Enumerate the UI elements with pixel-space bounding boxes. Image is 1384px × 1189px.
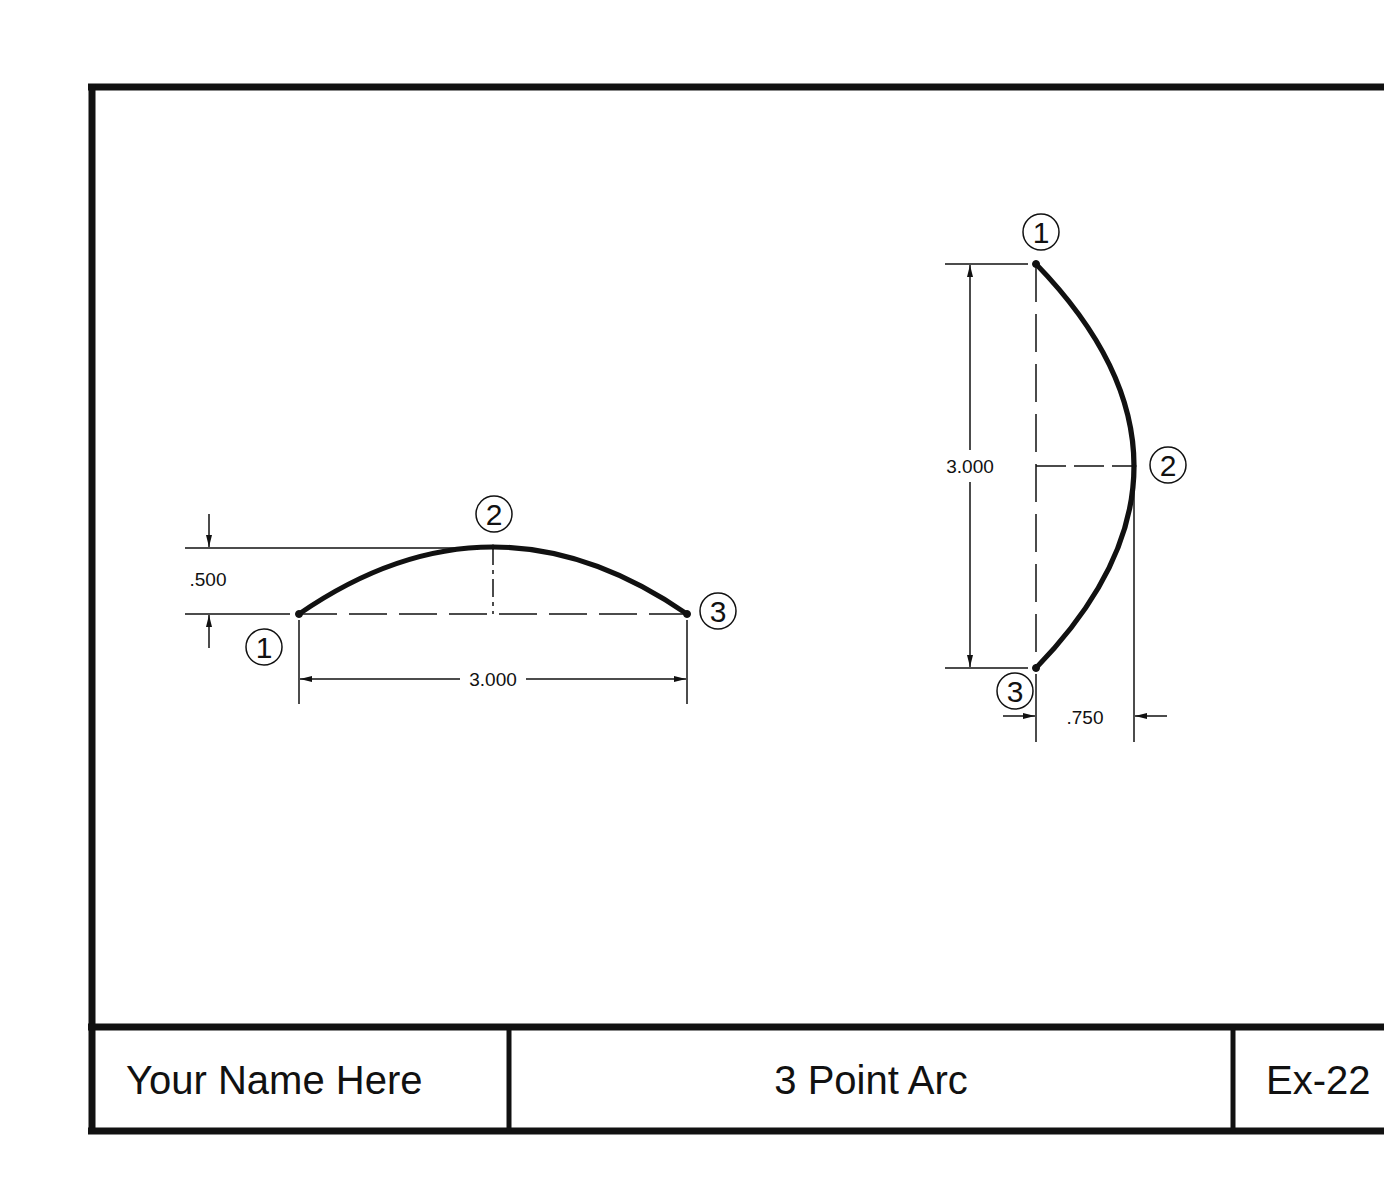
- title-block-name: Your Name Here: [126, 1060, 422, 1100]
- left-label-1: 1: [256, 631, 273, 664]
- left-arc-drawing: [185, 496, 736, 704]
- left-label-3: 3: [710, 595, 727, 628]
- left-dim-height: .500: [190, 569, 227, 590]
- right-label-2: 2: [1160, 449, 1177, 482]
- left-dim-width: 3.000: [469, 669, 517, 690]
- title-block-title: 3 Point Arc: [509, 1060, 1233, 1100]
- left-label-2: 2: [486, 498, 503, 531]
- right-dim-offset: .750: [1067, 707, 1104, 728]
- drawing-sheet: 1 2 3 .500 3.000 1 2 3 3.000 .750: [0, 0, 1384, 1189]
- right-arc-drawing: [945, 214, 1186, 742]
- right-dim-height: 3.000: [946, 456, 994, 477]
- right-label-3: 3: [1007, 675, 1024, 708]
- title-block-exercise: Ex-22: [1266, 1060, 1371, 1100]
- right-label-1: 1: [1033, 216, 1050, 249]
